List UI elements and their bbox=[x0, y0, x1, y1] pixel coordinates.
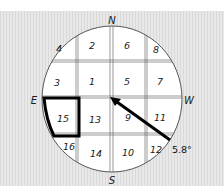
cell-number-2: 2 bbox=[89, 40, 95, 51]
cell-number-12: 12 bbox=[150, 144, 162, 155]
cell-number-4: 4 bbox=[56, 43, 62, 54]
cell-number-11: 11 bbox=[154, 112, 166, 123]
angle-label: 5.8° bbox=[172, 144, 192, 155]
cell-number-15: 15 bbox=[57, 113, 69, 124]
north-label: N bbox=[108, 15, 116, 26]
cell-number-1: 1 bbox=[89, 76, 95, 87]
compass-grid-diagram: 42683157151391116141012 N S E W 5.8° bbox=[0, 0, 224, 196]
cell-number-5: 5 bbox=[124, 76, 130, 87]
cell-number-9: 9 bbox=[125, 112, 131, 123]
east-label: E bbox=[31, 95, 38, 106]
cell-number-3: 3 bbox=[54, 77, 60, 88]
cell-number-13: 13 bbox=[89, 114, 101, 125]
cell-number-6: 6 bbox=[124, 40, 130, 51]
cell-number-7: 7 bbox=[157, 76, 163, 87]
cell-number-8: 8 bbox=[153, 44, 159, 55]
south-label: S bbox=[109, 175, 116, 186]
cell-number-14: 14 bbox=[90, 148, 102, 159]
west-label: W bbox=[184, 95, 195, 106]
cell-number-16: 16 bbox=[63, 141, 75, 152]
cell-number-10: 10 bbox=[122, 147, 134, 158]
